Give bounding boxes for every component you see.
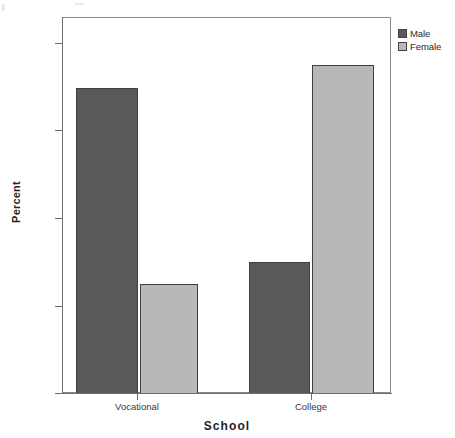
x-tick-label-vocational: Vocational [77,401,197,412]
legend-swatch-male-icon [398,29,407,38]
x-tick-vocational [137,393,138,400]
y-tick-20 [55,306,62,307]
legend: Male Female [398,27,454,53]
scan-artifact [2,4,5,11]
legend-label-female: Female [410,41,441,52]
x-axis-line [62,393,392,394]
y-axis-line [62,17,63,394]
x-tick-college [311,393,312,400]
bar-vocational-male [76,88,138,394]
bar-chart-figure: Percent 80% 60% 40% 20% 0% Vocational Co… [0,0,455,438]
y-tick-40 [55,218,62,219]
y-tick-0 [55,393,62,394]
legend-item-male[interactable]: Male [398,27,454,39]
scan-artifact [75,3,84,5]
bar-college-female [312,65,374,394]
x-tick-label-college: College [251,401,371,412]
legend-label-male: Male [410,28,430,39]
legend-swatch-female-icon [398,42,407,51]
y-tick-80 [55,43,62,44]
y-axis-title: Percent [10,162,22,242]
legend-item-female[interactable]: Female [398,40,454,52]
x-axis-title: School [62,419,392,433]
bar-vocational-female [140,284,198,394]
y-tick-60 [55,130,62,131]
bar-college-male [249,262,310,394]
